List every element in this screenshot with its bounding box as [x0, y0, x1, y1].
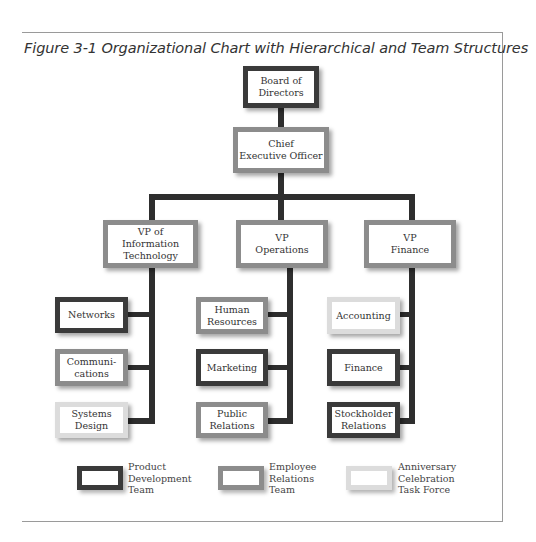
branch-public-relations [266, 418, 290, 424]
connector-bus-vp-fin [409, 194, 415, 222]
branch-networks [126, 312, 152, 317]
node-vp-information-technology: VP of Information Technology [103, 220, 198, 268]
spine-it [149, 266, 155, 424]
legend-label-product-development: Product Development Team [128, 461, 192, 496]
legend-swatch-product-development [77, 466, 123, 490]
node-finance: Finance [327, 349, 400, 386]
node-board-of-directors: Board of Directors [243, 66, 319, 108]
connector-bus-vp-ops [278, 194, 284, 222]
node-public-relations: Public Relations [196, 402, 268, 438]
node-vp-operations: VP Operations [236, 220, 328, 268]
legend-label-employee-relations: Employee Relations Team [269, 461, 316, 496]
node-systems-design: Systems Design [55, 402, 128, 438]
legend-swatch-anniversary-celebration [346, 466, 392, 490]
branch-human-resources [266, 312, 290, 317]
connector-board-ceo [278, 105, 284, 129]
node-vp-finance: VP Finance [364, 220, 456, 268]
branch-stockholder-relations [398, 418, 412, 424]
legend-swatch-employee-relations [218, 466, 264, 490]
branch-marketing [266, 365, 290, 370]
node-chief-executive-officer: Chief Executive Officer [233, 127, 329, 173]
figure-title: Figure 3-1 Organizational Chart with Hie… [24, 40, 528, 56]
branch-accounting [398, 312, 412, 317]
legend-label-anniversary-celebration: Anniversary Celebration Task Force [398, 461, 456, 496]
node-accounting: Accounting [327, 297, 400, 334]
spine-ops [287, 266, 293, 424]
connector-bus-vp-it [149, 194, 155, 222]
node-networks: Networks [55, 297, 128, 333]
node-stockholder-relations: Stockholder Relations [327, 402, 400, 438]
branch-communications [126, 365, 152, 370]
branch-finance [398, 365, 412, 370]
node-communications: Communi- cations [55, 349, 128, 386]
branch-systems-design [126, 418, 152, 424]
node-marketing: Marketing [196, 349, 268, 386]
spine-fin [409, 266, 415, 424]
node-human-resources: Human Resources [196, 297, 268, 334]
